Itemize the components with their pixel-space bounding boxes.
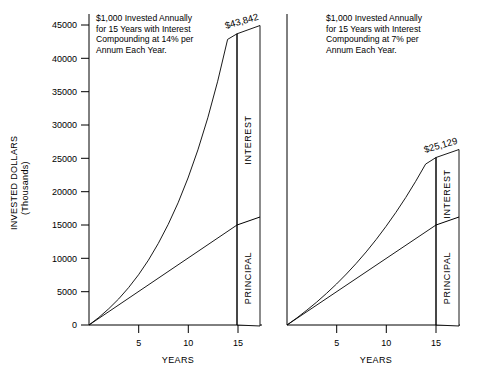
y-tick-label: 30000 bbox=[52, 120, 77, 130]
x-axis-tick-labels: 5 10 15 bbox=[334, 338, 441, 348]
panel-14-percent: 0 5000 10000 15000 20000 25000 30000 350… bbox=[0, 0, 290, 378]
panel-14-percent-caption: $1,000 Invested Annually for 15 Years wi… bbox=[96, 13, 221, 55]
x-tick-label: 15 bbox=[233, 338, 243, 348]
y-tick-label: 0 bbox=[72, 320, 77, 330]
x-axis-title: YEARS bbox=[162, 355, 195, 365]
x-tick-label: 10 bbox=[381, 338, 391, 348]
x-axis-title: YEARS bbox=[360, 355, 393, 365]
y-tick-label: 25000 bbox=[52, 154, 77, 164]
x-tick-label: 5 bbox=[136, 338, 141, 348]
panel-7-percent: 5 10 15 YEARS INTEREST PRINCIPAL $25,129 bbox=[270, 0, 481, 378]
principal-line bbox=[89, 225, 237, 325]
total-value-curve bbox=[287, 158, 436, 326]
chart-figure: INVESTED DOLLARS (Thousands) 0 5000 bbox=[0, 0, 481, 378]
x-tick-label: 15 bbox=[431, 338, 441, 348]
y-axis-ticks bbox=[81, 25, 89, 325]
x-axis-tick-labels: 5 10 15 bbox=[136, 338, 243, 348]
x-axis-ticks bbox=[337, 325, 436, 333]
total-value-curve bbox=[89, 34, 237, 325]
panel-7-percent-caption: $1,000 Invested Annually for 15 Years wi… bbox=[326, 13, 456, 55]
interest-segment-label: INTEREST bbox=[442, 169, 452, 218]
y-tick-label: 45000 bbox=[52, 20, 77, 30]
x-axis-ticks bbox=[139, 325, 238, 333]
y-tick-label: 40000 bbox=[52, 54, 77, 64]
interest-segment-label: INTEREST bbox=[243, 115, 253, 164]
y-axis-tick-labels: 0 5000 10000 15000 20000 25000 30000 350… bbox=[52, 20, 77, 330]
y-tick-label: 5000 bbox=[57, 287, 77, 297]
principal-segment-label: PRINCIPAL bbox=[243, 252, 253, 304]
x-tick-label: 5 bbox=[334, 338, 339, 348]
principal-line bbox=[287, 225, 436, 325]
y-tick-label: 20000 bbox=[52, 187, 77, 197]
y-tick-label: 35000 bbox=[52, 87, 77, 97]
y-tick-label: 15000 bbox=[52, 220, 77, 230]
x-tick-label: 10 bbox=[183, 338, 193, 348]
y-tick-label: 10000 bbox=[52, 254, 77, 264]
principal-segment-label: PRINCIPAL bbox=[442, 252, 452, 304]
